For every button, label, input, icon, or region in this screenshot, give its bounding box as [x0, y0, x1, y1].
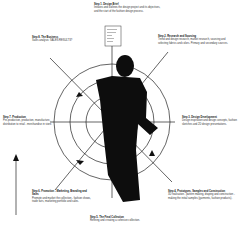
arrow-head [149, 150, 155, 156]
step-desc: Initiates and outlines the design projec… [94, 6, 160, 12]
step-desc: Promote and market the collection - fash… [32, 197, 91, 203]
step-desc: Design inspiration and design concepts, … [182, 119, 237, 125]
step-2-label: Step 2. Research and SourcingTrend and d… [158, 35, 230, 45]
step-desc: Trend and design research, market resear… [158, 38, 228, 44]
step-7-label: Step 7. ProductionPre-production, produc… [3, 116, 58, 126]
step-5-label: Step 5. The Final CollectionRefining and… [90, 216, 145, 223]
step-4-label: Step 4. Prototypes, Samples and Construc… [168, 190, 243, 200]
step-3-label: Step 3. Design DevelopmentDesign inspira… [182, 116, 244, 126]
step-desc: 3D realisation - pattern making, draping… [168, 193, 235, 199]
step-8-label: Step 8. The BusinessSales analysis: SALE… [32, 36, 82, 43]
step-desc: Sales analysis: SALES RESULTS? [32, 39, 72, 42]
up-arrow-icon [13, 154, 19, 161]
step-desc: Pre-production, production, manufacture,… [3, 119, 52, 125]
step-title: Step 6. Promotion - Marketing, Branding … [32, 190, 92, 197]
step-desc: Refining and creating a cohesive collect… [90, 219, 140, 222]
step-6-label: Step 6. Promotion - Marketing, Branding … [32, 190, 92, 203]
step-1-label: Step 1. Design BriefInitiates and outlin… [94, 3, 162, 13]
